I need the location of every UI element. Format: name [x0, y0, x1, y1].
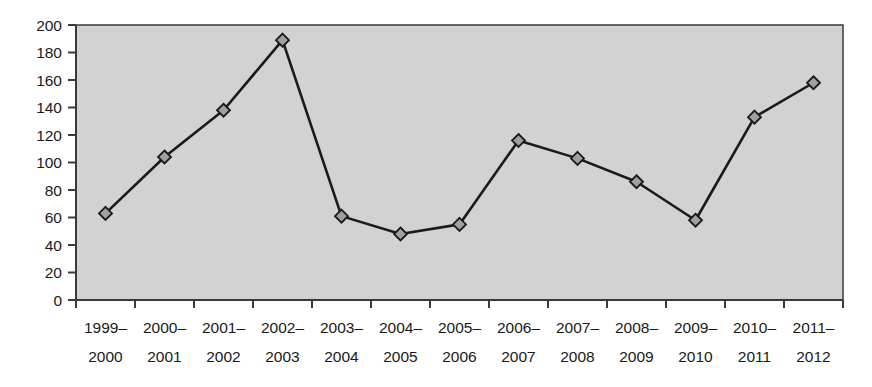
y-axis-tick-label: 100: [36, 154, 62, 171]
x-axis-category-label: 2000–: [143, 319, 186, 336]
x-axis-category-label: 2007–: [556, 319, 599, 336]
y-axis-tick-label: 180: [36, 44, 62, 61]
x-axis-category-label: 2004: [324, 348, 359, 365]
x-axis-category-label: 2009: [619, 348, 653, 365]
x-axis-category-label: 2010–: [733, 319, 776, 336]
y-axis-tick-label: 80: [45, 182, 63, 199]
x-axis-ticks: [76, 300, 843, 308]
x-axis-category-label: 2001–: [202, 319, 245, 336]
x-axis-category-label: 2006–: [497, 319, 540, 336]
x-axis-category-labels: 1999–20002000–20012001–20022002–20032003…: [84, 319, 835, 365]
y-axis-tick-labels: 020406080100120140160180200: [36, 17, 62, 309]
x-axis-category-label: 2012: [796, 348, 830, 365]
x-axis-category-label: 2000: [88, 348, 123, 365]
x-axis-category-label: 2011–: [793, 319, 835, 336]
y-axis-tick-label: 200: [36, 17, 62, 34]
y-axis-tick-label: 140: [36, 99, 62, 116]
y-axis-tick-label: 20: [45, 264, 63, 281]
x-axis-category-label: 1999–: [84, 319, 127, 336]
x-axis-category-label: 2009–: [674, 319, 717, 336]
y-axis-tick-label: 0: [53, 292, 62, 309]
x-axis-category-label: 2006: [442, 348, 476, 365]
x-axis-category-label: 2001: [147, 348, 181, 365]
x-axis-category-label: 2010: [678, 348, 713, 365]
y-axis-tick-label: 40: [45, 237, 63, 254]
y-axis-tick-label: 120: [36, 127, 62, 144]
x-axis-category-label: 2002: [206, 348, 240, 365]
x-axis-category-label: 2005–: [438, 319, 481, 336]
y-axis-tick-label: 160: [36, 72, 62, 89]
x-axis-category-label: 2008–: [615, 319, 658, 336]
x-axis-category-label: 2004–: [379, 319, 422, 336]
y-axis-ticks: [68, 25, 76, 300]
y-axis-tick-label: 60: [45, 209, 63, 226]
x-axis-category-label: 2008: [560, 348, 594, 365]
x-axis-category-label: 2005: [383, 348, 417, 365]
x-axis-category-label: 2003–: [320, 319, 363, 336]
x-axis-category-label: 2003: [265, 348, 299, 365]
x-axis-category-label: 2011: [738, 348, 771, 365]
line-chart: 020406080100120140160180200 1999–2000200…: [0, 0, 872, 387]
x-axis-category-label: 2002–: [261, 319, 304, 336]
x-axis-category-label: 2007: [501, 348, 535, 365]
chart-canvas: 020406080100120140160180200 1999–2000200…: [0, 0, 872, 387]
